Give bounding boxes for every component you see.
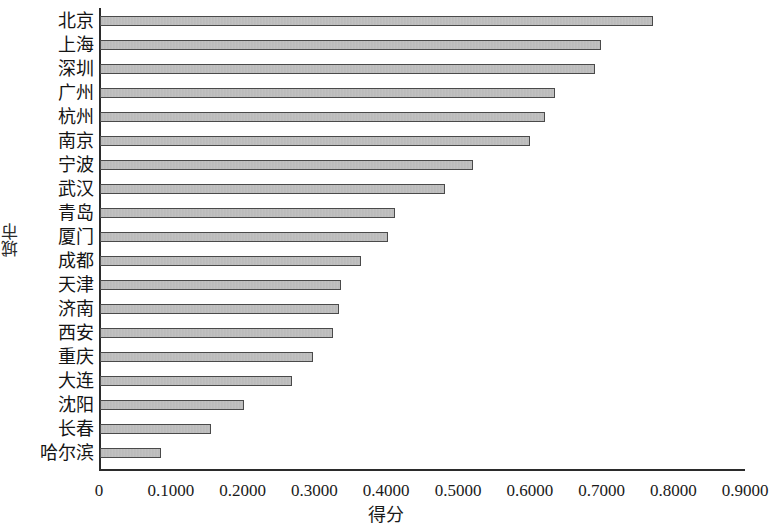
x-tick-label: 0.7000 xyxy=(578,480,625,502)
bar xyxy=(100,352,313,362)
category-label: 杭州 xyxy=(58,105,94,129)
bar xyxy=(100,232,388,242)
category-label: 大连 xyxy=(58,369,94,393)
bar xyxy=(100,256,361,266)
x-tick-label: 0.3000 xyxy=(291,480,338,502)
category-label: 上海 xyxy=(58,33,94,57)
bar xyxy=(100,160,473,170)
bar xyxy=(100,112,545,122)
x-tick-label: 0.2000 xyxy=(219,480,266,502)
bar xyxy=(100,208,395,218)
bar xyxy=(100,376,292,386)
plot-area: 00.10000.20000.30000.40000.50000.60000.7… xyxy=(99,8,745,470)
category-label: 哈尔滨 xyxy=(40,441,94,465)
category-label: 南京 xyxy=(58,129,94,153)
category-label: 北京 xyxy=(58,9,94,33)
x-axis-line xyxy=(99,469,745,471)
x-tick-label: 0.9000 xyxy=(722,480,769,502)
x-tick-label: 0 xyxy=(95,480,104,502)
category-label: 天津 xyxy=(58,273,94,297)
x-axis-title: 得分 xyxy=(0,500,771,526)
bar xyxy=(100,88,555,98)
category-label: 济南 xyxy=(58,297,94,321)
x-tick-label: 0.4000 xyxy=(363,480,410,502)
bar xyxy=(100,280,341,290)
bar xyxy=(100,448,161,458)
category-label: 厦门 xyxy=(58,225,94,249)
category-label: 成都 xyxy=(58,249,94,273)
category-label: 长春 xyxy=(58,417,94,441)
x-tick-label: 0.1000 xyxy=(147,480,194,502)
category-label: 广州 xyxy=(58,81,94,105)
category-label: 重庆 xyxy=(58,345,94,369)
x-tick-label: 0.6000 xyxy=(506,480,553,502)
category-label: 西安 xyxy=(58,321,94,345)
category-axis-labels: 北京上海深圳广州杭州南京宁波武汉青岛厦门成都天津济南西安重庆大连沈阳长春哈尔滨 xyxy=(26,8,94,470)
bar xyxy=(100,16,653,26)
x-tick-label: 0.8000 xyxy=(650,480,697,502)
category-label: 青岛 xyxy=(58,201,94,225)
bar xyxy=(100,40,601,50)
bar xyxy=(100,304,339,314)
category-label: 宁波 xyxy=(58,153,94,177)
category-label: 武汉 xyxy=(58,177,94,201)
category-label: 沈阳 xyxy=(58,393,94,417)
bar xyxy=(100,424,211,434)
bar xyxy=(100,64,595,74)
bar xyxy=(100,328,333,338)
bar-chart: 城市 北京上海深圳广州杭州南京宁波武汉青岛厦门成都天津济南西安重庆大连沈阳长春哈… xyxy=(0,0,771,530)
x-tick-label: 0.5000 xyxy=(435,480,482,502)
bar xyxy=(100,136,530,146)
bar xyxy=(100,184,445,194)
bar xyxy=(100,400,244,410)
category-label: 深圳 xyxy=(58,57,94,81)
